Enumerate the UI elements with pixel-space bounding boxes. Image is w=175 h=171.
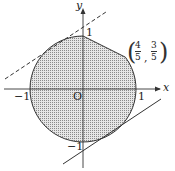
x-coordinate-fraction: 4 5 (135, 41, 141, 62)
y-coordinate-fraction: 3 5 (151, 41, 157, 62)
y-axis-label: y (76, 0, 82, 11)
coordinate-comma: , (144, 52, 148, 63)
origin-label: O (73, 91, 82, 102)
x-axis-label: x (163, 82, 169, 93)
right-paren: ) (159, 40, 168, 64)
tick-x-neg1: −1 (14, 91, 30, 102)
tick-x-pos1: 1 (138, 91, 145, 102)
x-axis-arrow-icon (155, 87, 161, 92)
tick-y-neg1: −1 (67, 141, 83, 152)
tick-y-pos1: 1 (86, 27, 93, 38)
